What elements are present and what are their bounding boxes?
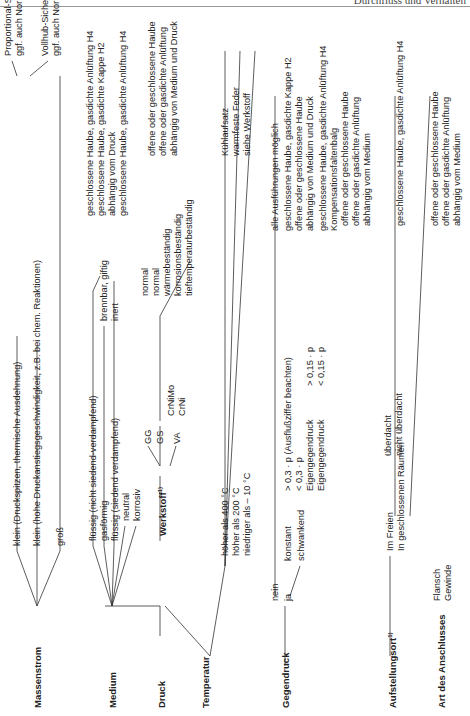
medium-sub: inert xyxy=(110,303,121,321)
werkstoff-material: GS xyxy=(155,431,166,444)
temperatur-result: Kühlaufsatz xyxy=(220,108,231,156)
werkstoff-property: tieftemperaturbeständig xyxy=(184,199,195,296)
freien-sub: überdacht xyxy=(383,415,394,456)
temperatur-option: höher als 400 °C xyxy=(220,487,231,556)
temperatur-result: warmfeste Feder xyxy=(231,87,242,156)
aufstellungsort-result: abhängig vom Medium xyxy=(362,133,373,226)
werkstoff-material: VA xyxy=(172,432,183,444)
werkstoff-property: normal xyxy=(140,268,151,296)
massenstrom-result: ggf. auch Normal-Sicherheitsventil xyxy=(14,0,25,56)
gegendruck-result: geschlossene Haube, gasdichte Anlüftung … xyxy=(318,46,329,231)
medium-option: neutral xyxy=(121,493,132,521)
medium-result: geschlossene Haube, gasdichte Kappe H2 xyxy=(96,42,107,216)
massenstrom-option: klein (Druckspitzen, thermische Ausdehnu… xyxy=(12,362,23,546)
ja-sub: schwankend xyxy=(296,510,307,561)
eigen-sub: > 0,15 · p xyxy=(305,347,316,386)
massenstrom-result: Proportional-Sicherheitsventil xyxy=(3,0,14,56)
aufstellungsort-result: offene oder gasdichte Anlüftung xyxy=(351,97,362,226)
gegendruck-result: offene oder geschlossene Haube xyxy=(294,96,305,231)
gegendruck-result: abhängig von Medium und Druck xyxy=(305,96,316,231)
anschluss-result: offene oder gasdichte Anlüftung xyxy=(441,97,452,226)
ja-sub: konstant xyxy=(283,526,294,561)
werkstoff-label: Werkstoff1) xyxy=(155,487,168,536)
aufstellungsort-label: Aufstellungsort1) xyxy=(385,632,398,708)
gegendruck-option: nein xyxy=(270,584,281,601)
freien-sub: nicht überdacht xyxy=(394,393,405,456)
anschluss-result: offene oder geschlossene Haube xyxy=(430,91,441,226)
werkstoff-property: wärmebeständig xyxy=(162,229,173,296)
medium-result: geschlossene Haube, gasdichte Anlüftung … xyxy=(85,31,96,216)
werkstoff-result: abhängig von Medium und Druck xyxy=(169,21,180,156)
medium-sub: brennbar, giftig xyxy=(99,260,110,321)
schwankend-sub: Eigengegendruck xyxy=(316,419,327,491)
temperatur-result: siehe Werkstoff xyxy=(242,93,253,156)
eigen-sub: < 0,15 · p xyxy=(316,347,327,386)
massenstrom-option: klein (hohe Druckanstiegsgeschwindigkeit… xyxy=(32,260,43,546)
anschluss-option: Flansch xyxy=(432,569,443,601)
massenstrom-option: groß xyxy=(55,527,66,546)
anschluss-result: abhängig vom Medium xyxy=(452,133,463,226)
medium-option: korrosiv xyxy=(132,489,143,521)
medium-option: flüssig (siedend verdampfend) xyxy=(110,418,121,541)
druck-label: Druck xyxy=(156,681,167,708)
aufstellungsort-result: geschlossene Haube, gasdichte Anlüftung … xyxy=(395,41,406,226)
medium-label: Medium xyxy=(107,672,118,708)
temperatur-option: niedriger als – 10 °C xyxy=(242,473,253,556)
va-sub: CrNiMo xyxy=(166,385,177,416)
werkstoff-property: normal xyxy=(151,268,162,296)
aufstellungsort-result: offene oder geschlossene Haube xyxy=(340,91,351,226)
gegendruck-result: alle Ausführungen möglich xyxy=(270,123,281,231)
temperatur-option: höher als 200 °C xyxy=(231,487,242,556)
medium-result: geschlossene Haube, gasdichte Anlüftung … xyxy=(118,31,129,216)
werkstoff-result: offene oder gasdichte Anlüftung xyxy=(158,27,169,156)
medium-option: flüssig (nicht siedend-verdampfend) xyxy=(88,395,99,541)
va-sub: CrNi xyxy=(177,398,188,416)
werkstoff-material: GG xyxy=(143,430,154,444)
massenstrom-label: Massenstrom xyxy=(32,647,43,708)
massenstrom-result: Vollhub-Sicherheitsventil xyxy=(40,0,51,56)
medium-result: abhängig vom Druck xyxy=(107,132,118,216)
werkstoff-result: offene oder geschlossene Haube xyxy=(147,21,158,156)
gegendruck-option: ja xyxy=(283,594,294,601)
gegendruck-label: Gegendruck xyxy=(280,653,291,708)
anschluss-option: Gewinde xyxy=(443,565,454,601)
gegendruck-result: Kompensationsfaltenbalg xyxy=(329,128,340,231)
aufstellungsort-option: In geschlossenen Räumen xyxy=(396,442,407,551)
gegendruck-result: geschlossene Haube, gasdichte Kappe H2 xyxy=(283,57,294,231)
schwankend-sub: Eigengegendruck xyxy=(305,419,316,491)
massenstrom-result: ggf. auch Normal-Sicherheitsventil xyxy=(51,0,62,56)
werkstoff-property: korrosionsbeständig xyxy=(173,214,184,296)
decision-tree-diagram: Massenstrom Medium Druck Temperatur Gege… xyxy=(0,0,470,716)
anschluss-label: Art des Anschlusses xyxy=(436,614,447,708)
medium-option: gasförmig xyxy=(99,501,110,541)
konstant-sub: > 0,3 · p (Ausflußziffer beachten) xyxy=(283,357,294,491)
aufstellungsort-option: Im Freien xyxy=(385,512,396,551)
temperatur-label: Temperatur xyxy=(200,656,211,708)
konstant-sub: < 0,3 · p xyxy=(294,457,305,491)
